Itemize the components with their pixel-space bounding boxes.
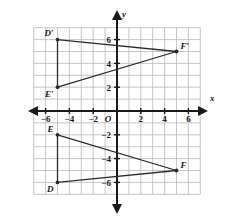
y-tick-label: −2 [101, 130, 111, 140]
x-axis-label: x [209, 93, 215, 103]
x-tick-label: 6 [186, 114, 191, 124]
vertex-label-d-prime: D′ [43, 28, 53, 38]
vertex-label-e: E [46, 124, 53, 134]
coordinate-plane-figure: xyO−6−4−2246642−2−4−6DEFD′E′F′ [0, 0, 227, 222]
vertex-label-d: D [46, 184, 54, 194]
y-tick-label: −6 [101, 178, 111, 188]
vertex-point-d [56, 181, 60, 185]
vertex-point-d-prime [56, 38, 60, 42]
y-tick-label: 4 [107, 59, 112, 69]
vertex-label-e-prime: E′ [44, 89, 54, 99]
vertex-point-e-prime [56, 85, 60, 89]
vertex-point-e [56, 133, 60, 137]
y-tick-label: −4 [101, 154, 111, 164]
x-tick-label: −2 [88, 114, 98, 124]
x-tick-label: −4 [65, 114, 75, 124]
vertex-label-f-prime: F′ [180, 41, 190, 51]
vertex-point-f-prime [175, 50, 179, 54]
x-tick-label: 2 [139, 114, 144, 124]
origin-label: O [105, 114, 112, 124]
y-tick-label: 2 [107, 83, 112, 93]
vertex-point-f [175, 169, 179, 173]
coordinate-plot-svg: xyO−6−4−2246642−2−4−6DEFD′E′F′ [0, 0, 227, 222]
x-tick-label: −6 [41, 114, 51, 124]
y-tick-label: 6 [107, 35, 112, 45]
vertex-label-f: F [180, 160, 187, 170]
x-tick-label: 4 [162, 114, 167, 124]
